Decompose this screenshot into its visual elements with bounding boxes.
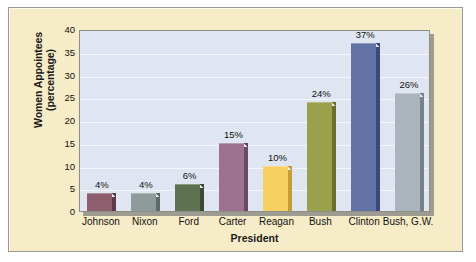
bar-slot: 26% xyxy=(395,31,424,211)
y-axis-tick-label: 20 xyxy=(51,116,75,125)
bar-face xyxy=(307,102,332,211)
bar[interactable] xyxy=(263,166,292,212)
bar-slot: 37% xyxy=(351,31,380,211)
y-axis-tick-label: 40 xyxy=(51,25,75,34)
bar-side xyxy=(420,97,424,211)
y-axis-tick-label: 15 xyxy=(51,139,75,148)
bar-top-bevel xyxy=(288,166,292,170)
y-axis-title-line1: Women Appointees xyxy=(32,0,44,160)
bar-top-bevel xyxy=(376,43,380,47)
bar-slot: 24% xyxy=(307,31,336,211)
bar[interactable] xyxy=(87,193,116,211)
bar-face xyxy=(175,184,200,211)
bar-top-bevel xyxy=(156,193,160,197)
bar-side xyxy=(112,197,116,211)
bar-slot: 4% xyxy=(131,31,160,211)
bar-side xyxy=(376,47,380,211)
bar-top-bevel xyxy=(244,143,248,147)
x-axis-tick-label: Bush, G.W. xyxy=(378,216,438,227)
plot-area: 4%4%6%15%10%24%37%26% xyxy=(79,30,430,212)
bar[interactable] xyxy=(395,93,424,211)
chart-figure: Women Appointees (percentage) 4035302520… xyxy=(8,7,463,252)
bar-value-label: 10% xyxy=(251,152,304,163)
bar[interactable] xyxy=(131,193,160,211)
bar[interactable] xyxy=(307,102,336,211)
bar-slot: 6% xyxy=(175,31,204,211)
y-axis-tick-label: 35 xyxy=(51,48,75,57)
y-axis-tick-label: 5 xyxy=(51,184,75,193)
bar-face xyxy=(87,193,112,211)
y-axis-tick-label: 10 xyxy=(51,162,75,171)
x-axis-tick-labels: JohnsonNixonFordCarterReaganBushClintonB… xyxy=(79,216,430,232)
y-axis-tick-label: 0 xyxy=(51,207,75,216)
x-axis-title: President xyxy=(79,232,430,244)
bar-top-bevel xyxy=(112,193,116,197)
bar-side xyxy=(156,197,160,211)
bar-slot: 10% xyxy=(263,31,292,211)
bar-value-label: 37% xyxy=(339,30,392,40)
bar-face xyxy=(219,143,244,211)
bar[interactable] xyxy=(219,143,248,211)
bar-slot: 15% xyxy=(219,31,248,211)
bar-top-bevel xyxy=(200,184,204,188)
bar-top-bevel xyxy=(420,93,424,97)
bar[interactable] xyxy=(175,184,204,211)
bar[interactable] xyxy=(351,43,380,211)
bar-face xyxy=(263,166,288,212)
bar-value-label: 15% xyxy=(207,129,260,140)
bar-side xyxy=(200,188,204,211)
bar-value-label: 26% xyxy=(383,79,430,90)
bar-side xyxy=(244,147,248,211)
y-axis-tick-label: 30 xyxy=(51,71,75,80)
y-axis-tick-label: 25 xyxy=(51,93,75,102)
bar-face xyxy=(131,193,156,211)
y-axis-tick-labels: 4035302520151050 xyxy=(49,8,75,251)
bar-slot: 4% xyxy=(87,31,116,211)
bar-side xyxy=(332,106,336,211)
bar-face xyxy=(351,43,376,211)
bar-side xyxy=(288,170,292,212)
bar-value-label: 24% xyxy=(295,88,348,99)
bar-value-label: 6% xyxy=(163,170,216,181)
bar-face xyxy=(395,93,420,211)
bar-top-bevel xyxy=(332,102,336,106)
